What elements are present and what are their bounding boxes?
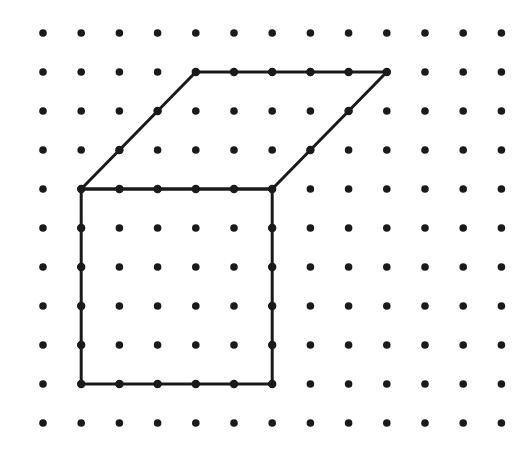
grid-dot [192, 107, 200, 115]
grid-dot [421, 263, 429, 271]
grid-dot [230, 302, 238, 310]
grid-dot [154, 263, 162, 271]
grid-dot [154, 29, 162, 37]
grid-dot [39, 302, 47, 310]
grid-dot [307, 107, 315, 115]
grid-dot [116, 107, 124, 115]
grid-dot [383, 185, 391, 193]
grid-dot [459, 68, 467, 76]
grid-dot [39, 224, 47, 232]
dot-grid-canvas [0, 0, 528, 451]
figure-vertex-dot [153, 185, 161, 193]
grid-dot [77, 107, 85, 115]
figure-vertex-dot [268, 380, 276, 388]
figure-vertex-dot [383, 68, 391, 76]
grid-dot [77, 146, 85, 154]
grid-dot [459, 380, 467, 388]
top-face-parallelogram [81, 72, 387, 189]
grid-dot [421, 29, 429, 37]
grid-dot [307, 263, 315, 271]
grid-dot [345, 380, 353, 388]
grid-dot [307, 29, 315, 37]
figure-vertex-dot [153, 380, 161, 388]
grid-dot [421, 107, 429, 115]
grid-dot [39, 419, 47, 427]
figure-vertex-dot [77, 380, 85, 388]
grid-dot [459, 263, 467, 271]
grid-dot [498, 380, 506, 388]
grid-dot [421, 224, 429, 232]
grid-dot [421, 68, 429, 76]
grid-dot [154, 224, 162, 232]
grid-dot [230, 419, 238, 427]
grid-dot [230, 146, 238, 154]
grid-dot [39, 380, 47, 388]
grid-dot [345, 146, 353, 154]
grid-dot [383, 263, 391, 271]
grid-dot [307, 185, 315, 193]
grid-dot [307, 419, 315, 427]
figure-vertex-dot [192, 380, 200, 388]
grid-dot [77, 29, 85, 37]
figure-vertex-dot [230, 68, 238, 76]
grid-dot [345, 302, 353, 310]
grid-dot [77, 419, 85, 427]
figure-vertex-dot [268, 341, 276, 349]
grid-dot [498, 107, 506, 115]
grid-dot [116, 29, 124, 37]
grid-dot [192, 263, 200, 271]
figure-vertex-dot [230, 380, 238, 388]
grid-dot [192, 146, 200, 154]
grid-dot [498, 302, 506, 310]
grid-dot [192, 224, 200, 232]
grid-dot [39, 263, 47, 271]
grid-dot [498, 185, 506, 193]
figure-vertex-dot [77, 263, 85, 271]
grid-dot [116, 341, 124, 349]
figure-vertex-dot [115, 185, 123, 193]
figure-vertex-dot [115, 146, 123, 154]
grid-dot [268, 419, 276, 427]
grid-dot [268, 29, 276, 37]
grid-dot [498, 68, 506, 76]
grid-dot [383, 146, 391, 154]
grid-dot [421, 380, 429, 388]
grid-dot [421, 185, 429, 193]
grid-dot [77, 68, 85, 76]
grid-dot [39, 341, 47, 349]
grid-dot [459, 224, 467, 232]
grid-dot [307, 341, 315, 349]
grid-dot [498, 419, 506, 427]
grid-dot [383, 107, 391, 115]
grid-dot [230, 341, 238, 349]
figure-vertex-dot [77, 302, 85, 310]
grid-dot [154, 341, 162, 349]
grid-dot [383, 341, 391, 349]
grid-dot [383, 29, 391, 37]
grid-dot [498, 341, 506, 349]
grid-dot [459, 341, 467, 349]
grid-dot [268, 146, 276, 154]
grid-dot [39, 185, 47, 193]
grid-dot [230, 29, 238, 37]
front-face-rectangle [81, 189, 272, 384]
grid-dot [230, 107, 238, 115]
grid-dot [307, 224, 315, 232]
grid-dot [459, 107, 467, 115]
grid-dot [230, 263, 238, 271]
grid-dot [230, 224, 238, 232]
grid-dot [39, 146, 47, 154]
grid-dot [192, 29, 200, 37]
figure-vertex-dot [192, 185, 200, 193]
figure-vertex-dot [77, 224, 85, 232]
grid-dot [39, 107, 47, 115]
figure-vertex-dot [344, 68, 352, 76]
figure-vertex-dot [344, 107, 352, 115]
grid-dot [345, 341, 353, 349]
figure-vertex-dot [268, 302, 276, 310]
grid-dot [39, 29, 47, 37]
grid-dot [345, 224, 353, 232]
grid-dot [154, 146, 162, 154]
grid-dot [383, 302, 391, 310]
grid-dot [421, 302, 429, 310]
